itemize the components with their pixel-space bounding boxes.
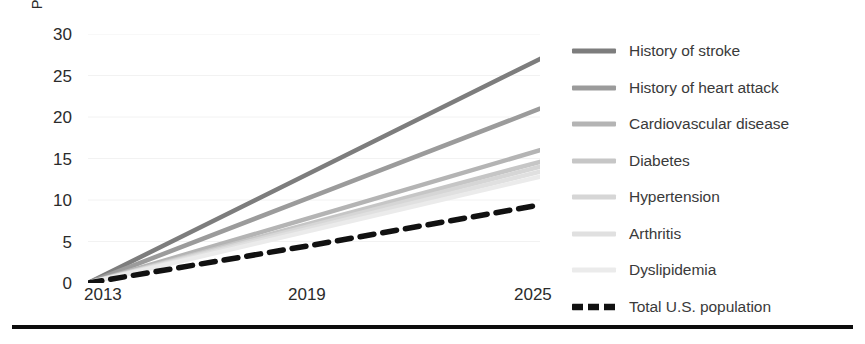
legend-item-arthritis[interactable]: Arthritis xyxy=(572,216,860,253)
legend-label: Total U.S. population xyxy=(629,298,771,316)
legend-label: Cardiovascular disease xyxy=(629,115,789,133)
y-tick-30: 30 xyxy=(38,26,72,43)
legend-swatch-icon xyxy=(572,82,616,93)
legend-label: History of stroke xyxy=(629,42,740,60)
legend-swatch-icon xyxy=(572,155,616,166)
legend-item-cardiovascular-disease[interactable]: Cardiovascular disease xyxy=(572,106,860,143)
series-lines xyxy=(88,59,540,283)
series-line-dyslipidemia xyxy=(88,177,540,283)
legend-swatch-bar xyxy=(572,158,616,163)
legend-swatch-icon xyxy=(572,192,616,203)
series-line-history-of-heart-attack xyxy=(88,109,540,283)
legend-swatch-icon xyxy=(572,228,616,239)
legend-label: History of heart attack xyxy=(629,79,779,97)
x-tick-2025: 2025 xyxy=(514,286,552,303)
y-tick-10: 10 xyxy=(38,192,72,209)
y-tick-0: 0 xyxy=(38,275,72,292)
legend-item-hypertension[interactable]: Hypertension xyxy=(572,179,860,216)
legend-item-dyslipidemia[interactable]: Dyslipidemia xyxy=(572,252,860,289)
bottom-divider-rule xyxy=(12,325,853,329)
legend-label: Arthritis xyxy=(629,225,681,243)
legend-swatch-icon xyxy=(572,301,616,312)
legend-label: Dyslipidemia xyxy=(629,261,716,279)
y-tick-25: 25 xyxy=(38,67,72,84)
legend-swatch-bar xyxy=(572,195,616,200)
legend-swatch-bar xyxy=(572,122,616,127)
legend-swatch-bar xyxy=(572,268,616,273)
legend-swatch-bar xyxy=(572,49,616,54)
legend-item-diabetes[interactable]: Diabetes xyxy=(572,143,860,180)
x-tick-2019: 2019 xyxy=(288,286,326,303)
legend-swatch-icon xyxy=(572,119,616,130)
legend-swatch-bar xyxy=(572,303,616,310)
legend-swatch-icon xyxy=(572,265,616,276)
growth-projection-chart: Percent growth (Relative to 2013) 302520… xyxy=(0,0,865,344)
legend-label: Diabetes xyxy=(629,152,690,170)
plot-area xyxy=(88,34,540,283)
legend: History of strokeHistory of heart attack… xyxy=(572,33,860,325)
series-canvas xyxy=(88,34,540,283)
gridlines xyxy=(88,34,540,242)
y-axis-title-container: Percent growth (Relative to 2013) xyxy=(6,22,32,290)
x-tick-2013: 2013 xyxy=(84,286,122,303)
legend-swatch-bar xyxy=(572,85,616,90)
y-tick-20: 20 xyxy=(38,109,72,126)
legend-swatch-icon xyxy=(572,46,616,57)
y-tick-5: 5 xyxy=(38,233,72,250)
legend-swatch-bar xyxy=(572,231,616,236)
y-tick-15: 15 xyxy=(38,150,72,167)
legend-item-total-u-s-population[interactable]: Total U.S. population xyxy=(572,289,860,326)
legend-label: Hypertension xyxy=(629,188,720,206)
legend-item-history-of-stroke[interactable]: History of stroke xyxy=(572,33,860,70)
y-axis-tick-labels: 302520151050 xyxy=(36,0,72,344)
legend-item-history-of-heart-attack[interactable]: History of heart attack xyxy=(572,70,860,107)
